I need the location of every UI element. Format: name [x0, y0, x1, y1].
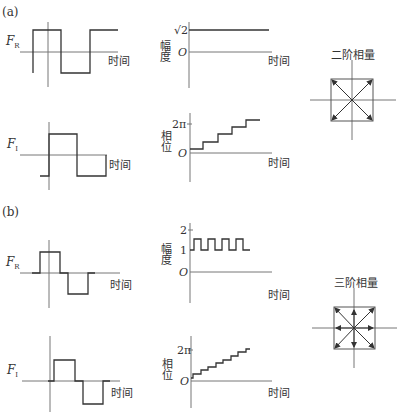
a-fr-label: FR: [6, 35, 20, 50]
b-amp-tick-origin: O: [179, 267, 188, 278]
a-fr-waveform: [20, 22, 118, 87]
b-fi-waveform: [22, 336, 120, 412]
b-amplitude-plot: [188, 223, 272, 303]
a-phase-tick-2pi: 2π: [172, 119, 186, 130]
b-amp-ylabel: 幅度: [160, 243, 171, 265]
a-amp-tick-origin: O: [178, 47, 187, 58]
a-constellation: [310, 60, 396, 140]
a-fi-time-label: 时间: [109, 160, 131, 171]
b-phase-tick-2pi: 2π: [177, 345, 191, 356]
a-fi-waveform: [20, 122, 107, 190]
a-amp-tick-sqrt2: √2: [174, 25, 188, 36]
diagram-canvas: [0, 0, 405, 418]
b-constellation-title: 三阶相量: [334, 278, 378, 289]
a-phase-ylabel: 相位: [160, 130, 171, 152]
a-phase-time-label: 时间: [268, 158, 290, 169]
b-fi-time-label: 时间: [111, 388, 133, 399]
a-fr-time-label: 时间: [108, 56, 130, 67]
b-amp-time-label: 时间: [268, 290, 290, 301]
b-phase-tick-origin: O: [180, 376, 189, 387]
a-phase-tick-origin: O: [178, 148, 187, 159]
b-amp-tick-1: 1: [180, 245, 187, 256]
b-phase-ylabel: 相位: [161, 358, 172, 380]
b-phase-plot: [188, 336, 272, 408]
b-fr-waveform: [20, 240, 120, 308]
a-amplitude-plot: [189, 22, 272, 88]
b-phase-time-label: 时间: [268, 388, 290, 399]
b-constellation: [312, 288, 397, 368]
a-amp-time-label: 时间: [268, 56, 290, 67]
b-fr-time-label: 时间: [110, 280, 132, 291]
panel-a-label: (a): [2, 6, 19, 18]
a-fi-label: FI: [7, 138, 18, 153]
panel-b-label: (b): [2, 206, 19, 218]
b-fi-label: FI: [7, 364, 18, 379]
a-phase-plot: [187, 113, 272, 182]
b-fr-label: FR: [6, 256, 20, 271]
a-constellation-title: 二阶相量: [331, 50, 375, 61]
b-amp-tick-2: 2: [180, 225, 187, 236]
a-amp-ylabel: 幅度: [159, 40, 170, 62]
